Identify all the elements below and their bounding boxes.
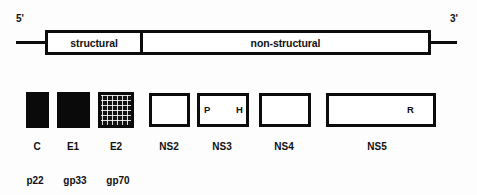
orf-region-non-structural-label: non-structural (251, 37, 321, 49)
three-prime-label: 3' (450, 13, 458, 24)
orf-region-non-structural: non-structural (140, 30, 431, 55)
protein-label-c: C (33, 141, 40, 152)
protein-box-e2 (98, 92, 134, 128)
protein-box-ns2 (149, 93, 190, 127)
protein-box-ns4 (259, 93, 311, 127)
domain-letter-helicase: H (236, 105, 243, 115)
protein-label-ns2: NS2 (159, 141, 178, 152)
domain-letter-rna-polymerase: R (407, 105, 414, 115)
glycoprotein-label-gp33: gp33 (63, 175, 86, 186)
five-prime-utr-line (16, 41, 47, 44)
orf-region-structural-label: structural (70, 37, 117, 49)
genome-organization-figure: 5' 3' structural non-structural C E1 E2 … (0, 0, 477, 195)
five-prime-label: 5' (16, 13, 24, 24)
glycoprotein-label-p22: p22 (26, 175, 43, 186)
three-prime-utr-line (428, 41, 457, 44)
protein-label-ns4: NS4 (274, 141, 293, 152)
protein-label-e1: E1 (67, 141, 79, 152)
protein-box-e1 (57, 92, 90, 128)
protein-label-ns5: NS5 (367, 141, 386, 152)
protein-label-e2: E2 (110, 141, 122, 152)
protein-box-c (26, 92, 49, 128)
glycoprotein-label-gp70: gp70 (106, 175, 129, 186)
orf-region-structural: structural (45, 30, 143, 55)
protein-box-ns5 (326, 93, 436, 127)
domain-letter-protease: P (204, 105, 210, 115)
protein-label-ns3: NS3 (212, 141, 231, 152)
